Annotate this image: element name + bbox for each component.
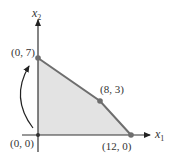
vertex-dot-0-0: [36, 133, 40, 137]
vertex-dot-12-0: [128, 132, 134, 138]
vertex-label-12-0: (12, 0): [102, 140, 132, 153]
x2-axis-label: x2: [31, 6, 41, 22]
vertex-dot-8-3: [97, 98, 103, 104]
vertex-label-8-3: (8, 3): [100, 83, 124, 96]
vertex-label-0-7: (0, 7): [11, 46, 35, 59]
vertex-label-0-0: (0, 0): [10, 137, 34, 150]
curved-arrow-icon: [20, 66, 33, 128]
vertex-dot-0-7: [35, 55, 41, 61]
x1-axis-label: x1: [154, 127, 164, 143]
feasible-region-diagram: x2 x1 (0, 7) (8, 3) (12, 0) (0, 0): [0, 0, 174, 162]
feasible-region: [38, 58, 131, 135]
